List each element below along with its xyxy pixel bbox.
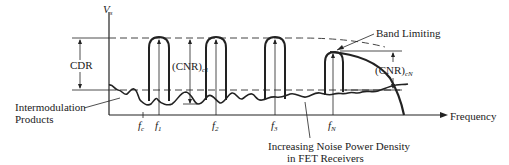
noise-label-line2: in FET Receivers [287,152,364,164]
intermod-leader [84,98,120,108]
x-axis-arrowhead [440,112,448,118]
tick-label-fN: fN [328,119,336,135]
tick-label-f2: f2 [212,119,219,135]
tick-label-f1: f1 [155,119,162,135]
carrier-noise-diagram: Vs Frequency CDR (CNR)c1 (CNR)cN Band Li… [0,0,509,165]
cdr-label: CDR [70,59,93,71]
diagram-canvas [0,0,509,165]
noise-density-leader [305,102,310,138]
tick-label-fc: fc [138,119,144,135]
intermod-label-line1: Intermodulation [15,101,86,113]
band-limiting-label: Band Limiting [376,27,440,39]
tick-label-f3: f3 [271,119,278,135]
intermod-label-line2: Products [15,113,54,125]
noise-floor-curve [109,84,408,105]
cnr-cN-label: (CNR)cN [375,64,413,80]
cnr-c1-label: (CNR)c1 [172,60,209,76]
x-axis-label: Frequency [450,110,496,122]
y-axis-label: Vs [103,3,112,19]
carrier-peak-fN [325,52,343,95]
noise-label-line1: Increasing Noise Power Density [268,140,410,152]
